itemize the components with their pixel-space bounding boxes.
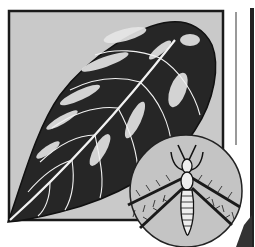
magnified-inset bbox=[128, 135, 242, 247]
adjacent-panel-fragment bbox=[236, 215, 252, 247]
illustration bbox=[0, 0, 255, 247]
